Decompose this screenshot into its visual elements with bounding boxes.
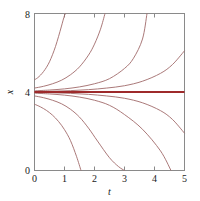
x-tick-label-4: 4 [152,173,157,184]
y-tick-labels: 0 4 8 [25,9,30,177]
y-axis-label: x [4,89,15,95]
solution-curves-chart: 0 1 2 3 4 5 0 4 8 t x [0,0,200,201]
figure-container: 0 1 2 3 4 5 0 4 8 t x [0,0,200,201]
x-tick-label-0: 0 [32,173,37,184]
x-tick-label-2: 2 [92,173,97,184]
y-tick-label-0: 0 [25,165,30,176]
y-tick-label-4: 4 [25,87,30,98]
x-axis-label: t [108,186,111,197]
x-tick-label-3: 3 [122,173,127,184]
x-tick-label-5: 5 [182,173,187,184]
x-tick-label-1: 1 [62,173,67,184]
y-tick-label-8: 8 [25,9,30,20]
x-tick-labels: 0 1 2 3 4 5 [32,173,187,184]
